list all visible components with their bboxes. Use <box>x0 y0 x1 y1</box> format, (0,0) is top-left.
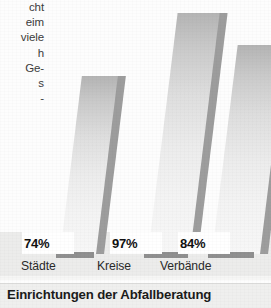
value-label-staedte: 74% <box>24 236 49 251</box>
chart-floor-edge <box>0 276 271 280</box>
category-label-staedte: Städte <box>21 259 56 273</box>
chart-caption: Einrichtungen der Abfallberatung <box>7 287 271 302</box>
bar-chart: 74% 97% 84% Städte Kreise Verbände Einri… <box>0 0 271 308</box>
bar-kreise[interactable] <box>148 13 220 254</box>
bar-staedte[interactable] <box>60 76 118 254</box>
category-label-kreise: Kreise <box>97 259 131 273</box>
category-label-verbaende: Verbände <box>160 259 211 273</box>
bar-verbaende[interactable] <box>212 45 271 254</box>
bar-fill <box>212 45 271 254</box>
value-label-kreise: 97% <box>112 236 137 251</box>
value-label-verbaende: 84% <box>180 236 205 251</box>
page-background: cht eim viele h Ge- s - <box>0 0 271 308</box>
